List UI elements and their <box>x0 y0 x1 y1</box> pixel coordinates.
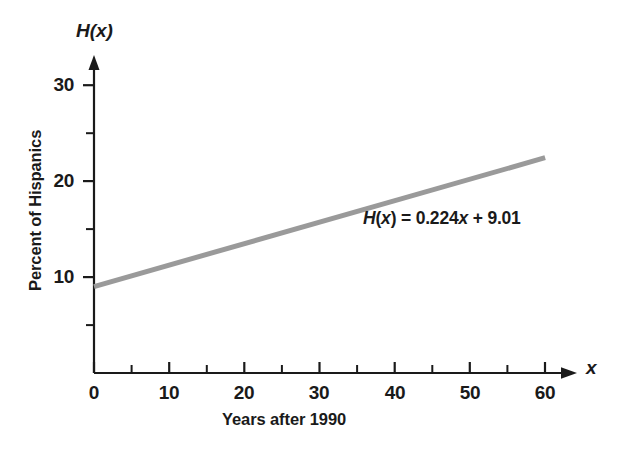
x-tick-label-40: 40 <box>375 382 415 404</box>
x-axis-arrowhead <box>561 367 577 379</box>
equation-slope-value: 0.224 <box>416 208 459 228</box>
x-tick-label-60: 60 <box>525 382 565 404</box>
equation-equals-sign: = <box>401 208 411 228</box>
equation-annotation: H(x) = 0.224x + 9.01 <box>363 208 521 229</box>
x-tick-label-30: 30 <box>299 382 339 404</box>
equation-argument: x <box>381 208 391 228</box>
equation-slope-variable: x <box>458 208 468 228</box>
y-axis-title: Percent of Hispanics <box>26 130 45 291</box>
x-tick-label-10: 10 <box>149 382 189 404</box>
equation-plus-sign: + <box>473 208 483 228</box>
x-tick-label-0: 0 <box>74 382 114 404</box>
chart-figure: 30 20 10 0 10 20 30 40 50 60 H(x) x Perc… <box>0 0 620 451</box>
y-tick-label-30: 30 <box>28 74 74 96</box>
equation-paren-close: ) <box>391 208 397 228</box>
x-axis-title: Years after 1990 <box>222 410 346 429</box>
equation-function-name: H <box>363 208 375 228</box>
equation-intercept-value: 9.01 <box>487 208 520 228</box>
y-axis-name-label: H(x) <box>76 20 113 42</box>
y-axis-arrowhead <box>89 55 100 70</box>
x-tick-label-50: 50 <box>450 382 490 404</box>
x-axis-name-label: x <box>586 357 597 379</box>
x-tick-label-20: 20 <box>224 382 264 404</box>
